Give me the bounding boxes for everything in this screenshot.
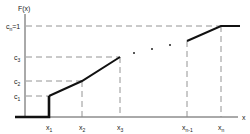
ellipsis-dot <box>151 48 153 50</box>
cdf-diagram: F(x) x cn=1 c3 c2 c1 x1 x2 x3 xn-1 xn <box>0 0 250 134</box>
label-x1: x1 <box>46 124 53 133</box>
label-x3: x3 <box>117 124 124 133</box>
label-c1: c1 <box>14 93 21 102</box>
y-axis-label: F(x) <box>18 5 30 13</box>
label-xn: xn <box>218 124 225 133</box>
label-c2: c2 <box>14 78 21 87</box>
label-cn: cn=1 <box>6 23 20 32</box>
label-x2: x2 <box>79 124 86 133</box>
label-xn1: xn-1 <box>182 124 193 133</box>
ellipsis-dot <box>133 52 135 54</box>
cdf-segment-start <box>49 57 120 96</box>
cdf-segment-end <box>187 26 240 41</box>
x-axis-label: x <box>242 114 246 121</box>
ellipsis-dot <box>169 44 171 46</box>
label-c3: c3 <box>14 54 21 63</box>
